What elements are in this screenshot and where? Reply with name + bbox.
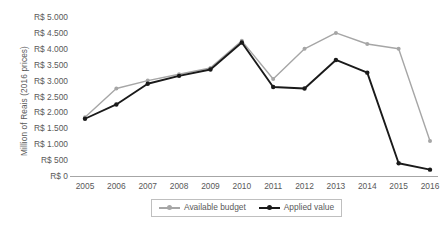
- legend-label: Applied value: [284, 202, 334, 213]
- data-point-marker: [240, 40, 244, 44]
- data-point-marker: [146, 82, 150, 86]
- x-tick-label: 2016: [410, 179, 448, 193]
- data-point-marker: [271, 85, 275, 89]
- legend-marker-icon: [259, 203, 280, 212]
- data-point-marker: [177, 74, 181, 78]
- data-point-marker: [302, 86, 306, 90]
- data-point-marker: [334, 31, 338, 35]
- data-point-marker: [83, 117, 87, 121]
- data-point-marker: [365, 70, 369, 74]
- x-axis-tick-labels: 2005200620072008200920102011201220132014…: [0, 179, 448, 195]
- data-point-marker: [365, 42, 369, 46]
- legend-marker-icon: [159, 203, 180, 212]
- data-point-marker: [208, 67, 212, 71]
- legend-label: Available budget: [184, 202, 246, 213]
- data-point-marker: [397, 47, 401, 51]
- data-point-marker: [303, 47, 307, 51]
- line-chart: Million of Reais (2016 prices) R$ 5.000R…: [0, 0, 448, 229]
- series-line: [85, 33, 430, 141]
- chart-legend: Available budget Applied value: [151, 199, 342, 217]
- data-point-marker: [114, 87, 118, 91]
- legend-item-available-budget[interactable]: Available budget: [159, 202, 246, 213]
- data-point-marker: [396, 161, 400, 165]
- data-point-marker: [428, 167, 432, 171]
- data-point-marker: [334, 58, 338, 62]
- data-point-marker: [428, 139, 432, 143]
- series-line: [85, 42, 430, 169]
- legend-item-applied-value[interactable]: Applied value: [259, 202, 334, 213]
- data-point-marker: [271, 77, 275, 81]
- data-point-marker: [114, 102, 118, 106]
